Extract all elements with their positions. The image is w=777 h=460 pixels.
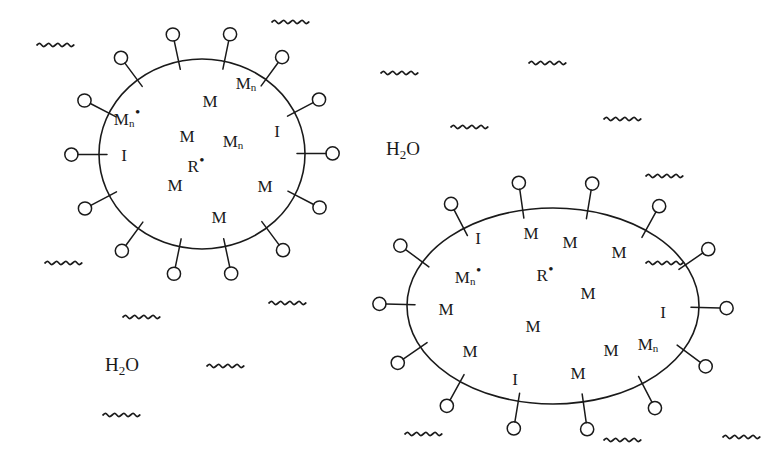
water-squiggle xyxy=(604,438,641,441)
surfactant-head-icon xyxy=(394,239,407,252)
surfactant-tail xyxy=(174,41,180,69)
surfactant-molecule xyxy=(288,93,326,116)
water-squiggle-stroke xyxy=(272,20,309,23)
surfactant-molecule xyxy=(394,239,429,267)
surfactant-head-icon xyxy=(653,200,666,213)
species-label-monomer: M xyxy=(211,209,226,226)
species-label-monomer: M xyxy=(179,128,194,145)
water-squiggle-stroke xyxy=(45,261,82,264)
water-label-upper-right: H2O xyxy=(386,139,420,160)
species-label-initiator: I xyxy=(274,123,280,140)
species-label-initiator: I xyxy=(512,371,518,388)
water-label-lower-left: H2O xyxy=(105,355,139,376)
surfactant-tail xyxy=(520,189,524,218)
species-label-monomer: M xyxy=(202,93,217,110)
surfactant-molecule xyxy=(78,192,116,215)
water-squiggle xyxy=(45,261,82,264)
surfactant-molecule xyxy=(677,345,712,373)
water-squiggle-stroke xyxy=(529,61,566,64)
water-squiggle xyxy=(451,125,488,128)
water-squiggle-stroke xyxy=(451,125,488,128)
species-subscript: n xyxy=(251,81,257,93)
surfactant-head-icon xyxy=(702,243,715,256)
water-squiggle-stroke xyxy=(405,432,442,435)
water-squiggle-stroke xyxy=(604,117,641,120)
surfactant-head-icon xyxy=(276,244,289,257)
surfactant-head-icon xyxy=(225,267,238,280)
surfactant-tail xyxy=(450,375,464,400)
surfactant-head-icon xyxy=(78,94,91,107)
water-subscript: 2 xyxy=(119,363,126,378)
species-label-initiator: I xyxy=(475,230,481,247)
surfactant-tail xyxy=(691,307,720,308)
water-squiggle xyxy=(123,315,160,318)
species-label-oligomer: Mn xyxy=(223,133,244,151)
water-squiggle xyxy=(272,20,309,23)
species-label-oligomer-radical: Mn• xyxy=(455,263,481,287)
surfactant-tail xyxy=(582,394,586,423)
surfactant-head-icon xyxy=(648,401,661,414)
water-squiggle-stroke xyxy=(646,261,683,264)
surfactant-tail xyxy=(386,304,415,305)
species-label-monomer: M xyxy=(562,234,577,251)
water-squiggle xyxy=(103,413,140,416)
surfactant-head-icon xyxy=(276,51,289,64)
surfactant-molecule xyxy=(115,222,143,257)
surfactant-tail xyxy=(288,191,314,204)
species-label-oligomer-radical: Mn• xyxy=(114,105,140,129)
water-squiggle-stroke xyxy=(37,43,74,46)
water-squiggle xyxy=(37,43,74,46)
surfactant-molecule xyxy=(288,191,326,214)
surfactant-molecule xyxy=(114,51,142,86)
species-subscript: n xyxy=(129,117,135,129)
surfactant-molecule xyxy=(78,94,116,117)
species-label-monomer: M xyxy=(257,178,272,195)
water-squiggle-stroke xyxy=(381,71,418,74)
surfactant-molecule xyxy=(391,343,427,370)
surfactant-tail xyxy=(639,376,652,402)
surfactant-head-icon xyxy=(114,51,127,64)
water-squiggle xyxy=(723,435,760,438)
surfactant-molecule xyxy=(639,376,662,414)
radical-dot-icon: • xyxy=(476,262,481,278)
species-subscript: n xyxy=(653,342,659,354)
surfactant-head-icon xyxy=(326,147,339,160)
surfactant-head-icon xyxy=(313,201,326,214)
micelle-right xyxy=(373,176,733,436)
surfactant-molecule xyxy=(642,200,666,238)
surfactant-molecule xyxy=(65,148,107,161)
surfactant-head-icon xyxy=(440,399,453,412)
species-label-initiator: I xyxy=(121,147,127,164)
surfactant-tail xyxy=(223,41,229,69)
species-subscript: n xyxy=(238,139,244,151)
surfactant-head-icon xyxy=(444,197,457,210)
surfactant-head-icon xyxy=(78,202,91,215)
water-squiggle xyxy=(381,71,418,74)
surfactant-head-icon xyxy=(223,28,236,41)
surfactant-head-icon xyxy=(312,93,325,106)
surfactant-molecule xyxy=(261,51,289,86)
species-label-monomer: M xyxy=(570,365,585,382)
surfactant-tail xyxy=(90,104,116,117)
radical-dot-icon: • xyxy=(199,152,204,168)
water-squiggle-stroke xyxy=(269,301,306,304)
surfactant-head-icon xyxy=(512,176,525,189)
surfactant-head-icon xyxy=(373,297,386,310)
species-label-monomer: M xyxy=(523,225,538,242)
water-squiggle xyxy=(529,61,566,64)
surfactant-head-icon xyxy=(507,422,520,435)
species-label-primary-radical: R• xyxy=(536,262,553,285)
surfactant-head-icon xyxy=(720,302,733,315)
surfactant-head-icon xyxy=(391,356,404,369)
micelle-diagram-svg xyxy=(0,0,777,460)
surfactant-head-icon xyxy=(166,28,179,41)
species-label-monomer: M xyxy=(438,301,453,318)
species-label-monomer: M xyxy=(603,342,618,359)
surfactant-tail xyxy=(642,212,656,237)
water-squiggle-stroke xyxy=(123,315,160,318)
water-squiggle xyxy=(269,301,306,304)
species-label-initiator: I xyxy=(660,304,666,321)
radical-dot-icon: • xyxy=(135,104,140,120)
diagram-canvas: Mn•MMnMMnIIR•MMMIMMMMn•R•MMIMMMMnMI H2OH… xyxy=(0,0,777,460)
surfactant-tail xyxy=(586,190,591,219)
